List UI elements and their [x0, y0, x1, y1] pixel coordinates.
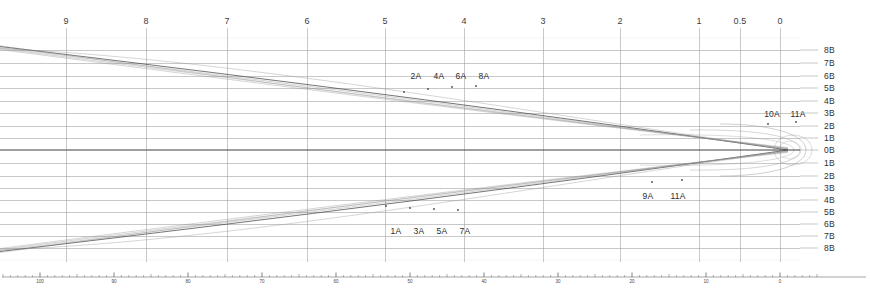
right-axis-tick-9: 1B	[824, 158, 835, 168]
top-axis-tick-8: 8	[143, 16, 148, 26]
right-axis-tick-4: 4B	[824, 96, 835, 106]
top-axis-tick-4: 4	[461, 16, 466, 26]
top-axis-tick-2: 2	[617, 16, 622, 26]
ruler-tick-90: 90	[111, 279, 116, 284]
ruler-tick-50: 50	[407, 279, 412, 284]
curve-label-7a-7: 7A	[460, 226, 471, 236]
right-axis-tick-8: 0B	[824, 145, 835, 155]
top-axis-tick-1: 1	[696, 16, 701, 26]
right-axis-tick-5: 3B	[824, 108, 835, 118]
fan-diagram-canvas: 9876543210.50 8B7B6B5B4B3B2B1B0B1B2B3B4B…	[0, 0, 870, 294]
right-axis-tick-12: 4B	[824, 195, 835, 205]
top-axis-tick-3: 3	[540, 16, 545, 26]
top-axis-tick-7: 7	[224, 16, 229, 26]
curve-label-10a-10: 10A	[764, 109, 780, 119]
right-axis-tick-16: 8B	[824, 243, 835, 253]
right-axis-tick-6: 2B	[824, 121, 835, 131]
curve-label-6a-2: 6A	[456, 71, 467, 81]
top-axis-tick-0-5: 0.5	[733, 16, 746, 26]
curve-label-11a-9: 11A	[670, 191, 685, 201]
plot-area	[0, 0, 870, 294]
right-axis-tick-1: 7B	[824, 58, 835, 68]
right-axis-tick-14: 6B	[824, 219, 835, 229]
right-axis-tick-0: 8B	[824, 45, 835, 55]
curve-label-4a-1: 4A	[434, 71, 445, 81]
top-axis-tick-0: 0	[777, 16, 782, 26]
curve-label-3a-5: 3A	[414, 226, 425, 236]
right-axis-tick-13: 5B	[824, 207, 835, 217]
ruler-tick-0: 0	[779, 279, 782, 284]
bottom-ruler-ticks	[2, 273, 866, 278]
ruler-tick-100: 100	[36, 279, 44, 284]
curve-label-9a-8: 9A	[643, 191, 654, 201]
ruler-tick-40: 40	[481, 279, 486, 284]
right-axis-tick-7: 1B	[824, 133, 835, 143]
top-axis-tick-5: 5	[382, 16, 387, 26]
ruler-tick-10: 10	[703, 279, 708, 284]
right-axis-tick-2: 6B	[824, 71, 835, 81]
ruler-tick-20: 20	[629, 279, 634, 284]
ruler-tick-60: 60	[333, 279, 338, 284]
ruler-tick-80: 80	[185, 279, 190, 284]
right-tick-stubs	[800, 50, 818, 248]
right-axis-tick-3: 5B	[824, 83, 835, 93]
top-axis-tick-6: 6	[304, 16, 309, 26]
ruler-tick-30: 30	[555, 279, 560, 284]
curve-label-2a-0: 2A	[411, 71, 422, 81]
curve-label-5a-6: 5A	[437, 226, 448, 236]
curve-label-1a-4: 1A	[391, 226, 402, 236]
right-axis-tick-11: 3B	[824, 183, 835, 193]
curve-group	[0, 46, 812, 253]
right-axis-tick-10: 2B	[824, 171, 835, 181]
top-axis-tick-9: 9	[63, 16, 68, 26]
right-axis-tick-15: 7B	[824, 231, 835, 241]
ruler-tick-70: 70	[259, 279, 264, 284]
curve-label-8a-3: 8A	[479, 71, 490, 81]
curve-label-11a-11: 11A	[790, 109, 805, 119]
